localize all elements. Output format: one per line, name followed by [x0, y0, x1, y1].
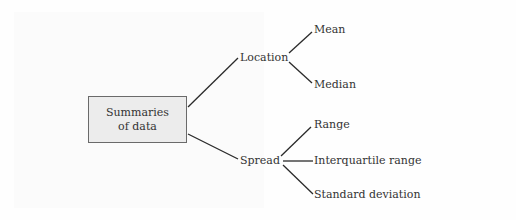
diagram-canvas: Summaries of data Location Mean Median S…: [0, 0, 516, 220]
root-label-line2: of data: [118, 120, 157, 134]
edge-location-median: [289, 62, 312, 83]
node-median: Median: [314, 78, 356, 92]
edge-location-mean: [289, 32, 312, 53]
node-spread: Spread: [240, 154, 280, 168]
root-label-line1: Summaries: [106, 106, 169, 120]
edge-spread-sd: [283, 165, 313, 194]
connector-lines: [0, 0, 516, 220]
root-node-summaries-of-data: Summaries of data: [88, 96, 187, 143]
edge-spread-range: [281, 127, 311, 156]
node-mean: Mean: [314, 23, 345, 37]
node-range: Range: [314, 118, 350, 132]
node-standard-deviation: Standard deviation: [314, 188, 420, 202]
edge-root-location: [188, 58, 238, 107]
node-interquartile-range: Interquartile range: [314, 154, 421, 168]
node-location: Location: [240, 51, 288, 65]
edge-root-spread: [188, 134, 238, 159]
